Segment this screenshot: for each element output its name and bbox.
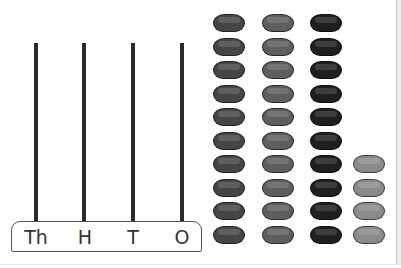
- bead[interactable]: [310, 202, 342, 220]
- bead[interactable]: [353, 155, 385, 173]
- bead[interactable]: [310, 61, 342, 79]
- bead[interactable]: [310, 226, 342, 244]
- label-thousands: Th: [21, 226, 51, 248]
- bead[interactable]: [310, 108, 342, 126]
- bead[interactable]: [213, 179, 245, 197]
- bead[interactable]: [310, 155, 342, 173]
- bead[interactable]: [213, 38, 245, 56]
- pole-tens: [131, 43, 135, 222]
- bead[interactable]: [310, 132, 342, 150]
- bead[interactable]: [213, 132, 245, 150]
- label-ones: O: [167, 226, 197, 248]
- bead[interactable]: [213, 14, 245, 32]
- bead[interactable]: [213, 155, 245, 173]
- bead[interactable]: [213, 226, 245, 244]
- bead[interactable]: [213, 61, 245, 79]
- bead[interactable]: [262, 85, 294, 103]
- pole-hundreds: [82, 43, 86, 222]
- bead[interactable]: [262, 132, 294, 150]
- bead[interactable]: [213, 85, 245, 103]
- bead[interactable]: [262, 61, 294, 79]
- bead[interactable]: [213, 108, 245, 126]
- bead[interactable]: [262, 202, 294, 220]
- bead[interactable]: [310, 14, 342, 32]
- bead[interactable]: [353, 179, 385, 197]
- label-hundreds: H: [70, 226, 100, 248]
- bead[interactable]: [310, 179, 342, 197]
- label-tens: T: [118, 226, 148, 248]
- bottom-divider: [0, 264, 401, 265]
- bead[interactable]: [310, 85, 342, 103]
- bead[interactable]: [262, 155, 294, 173]
- bead[interactable]: [262, 108, 294, 126]
- bead[interactable]: [353, 226, 385, 244]
- bead[interactable]: [262, 226, 294, 244]
- pole-ones: [180, 43, 184, 222]
- bead[interactable]: [353, 202, 385, 220]
- bead[interactable]: [262, 179, 294, 197]
- abacus-base: Th H T O: [11, 221, 202, 252]
- bead[interactable]: [213, 202, 245, 220]
- bead[interactable]: [262, 38, 294, 56]
- pole-thousands: [34, 43, 38, 222]
- page-edge-shade: [397, 0, 401, 264]
- bead[interactable]: [310, 38, 342, 56]
- bead[interactable]: [262, 14, 294, 32]
